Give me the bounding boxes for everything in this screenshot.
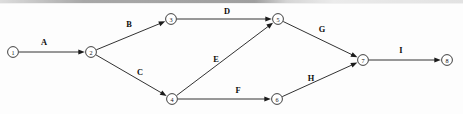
edge-c [96, 55, 162, 93]
node-label-6: 6 [275, 96, 278, 103]
edge-label-c: C [137, 68, 143, 77]
nodes-layer: 12345678 [8, 14, 453, 105]
arrowhead-icon [434, 57, 441, 62]
arrowhead-icon [266, 23, 273, 29]
arrowhead-icon [160, 90, 167, 96]
edge-label-a: A [41, 38, 47, 47]
arrowhead-icon [350, 63, 357, 68]
edge-h [282, 65, 352, 97]
arrowhead-icon [158, 21, 165, 26]
node-label-5: 5 [276, 16, 279, 23]
arrowheads-layer [78, 16, 441, 101]
node-6[interactable]: 6 [272, 94, 283, 105]
node-3[interactable]: 3 [166, 14, 177, 25]
network-diagram: 12345678 ABCDEFGHI [0, 0, 463, 114]
node-label-7: 7 [361, 57, 364, 64]
edge-label-f: F [235, 86, 240, 95]
arrowhead-icon [265, 16, 272, 21]
edge-label-h: H [308, 74, 315, 83]
node-8[interactable]: 8 [442, 55, 453, 66]
node-1[interactable]: 1 [8, 47, 19, 58]
edge-label-d: D [224, 7, 230, 16]
edge-label-g: G [319, 25, 326, 34]
arrowhead-icon [264, 96, 271, 101]
node-label-4: 4 [170, 96, 173, 103]
node-4[interactable]: 4 [167, 94, 178, 105]
edges-layer [19, 19, 436, 99]
edge-label-b: B [126, 20, 132, 29]
node-2[interactable]: 2 [86, 47, 97, 58]
node-label-8: 8 [445, 57, 448, 64]
arrowhead-icon [78, 49, 85, 54]
node-label-1: 1 [11, 49, 14, 56]
node-7[interactable]: 7 [358, 55, 369, 66]
node-label-2: 2 [89, 49, 92, 56]
edge-label-e: E [213, 55, 219, 64]
activity-on-arrow-graph: 12345678 ABCDEFGHI [0, 0, 463, 114]
edge-label-i: I [399, 46, 402, 55]
node-5[interactable]: 5 [273, 14, 284, 25]
node-label-3: 3 [169, 16, 172, 23]
edge-e [177, 26, 269, 96]
arrowhead-icon [350, 52, 357, 57]
